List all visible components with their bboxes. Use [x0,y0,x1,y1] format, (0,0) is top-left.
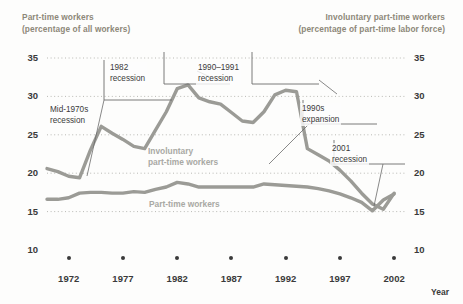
annotation-2001-recession: 2001 recession [330,143,369,166]
x-tick-label-2002: 2002 [374,273,414,284]
x-tick-dot-1972 [67,256,71,260]
y-tick-left-15: 15 [16,206,38,217]
x-tick-label-1982: 1982 [157,273,197,284]
x-tick-label-1987: 1987 [211,273,251,284]
series-label-parttime: Part-time workers [149,199,220,210]
y-tick-left-35: 35 [16,52,38,63]
right-axis-title: Involuntary part-time workers (percentag… [298,12,445,35]
x-axis-title: Year [431,287,449,297]
y-tick-left-30: 30 [16,90,38,101]
annotation-1990s-expansion: 1990s expansion [300,103,341,126]
y-tick-right-30: 30 [414,90,436,101]
y-tick-right-15: 15 [414,206,436,217]
y-tick-right-10: 10 [414,244,436,255]
x-tick-dot-1987 [229,256,233,260]
x-tick-dot-2002 [392,256,396,260]
series-label-involuntary: Involuntary part-time workers [148,146,218,167]
x-tick-dot-1977 [121,256,125,260]
x-tick-dot-1982 [175,256,179,260]
x-tick-dot-1992 [284,256,288,260]
y-tick-right-35: 35 [414,52,436,63]
y-tick-left-25: 25 [16,129,38,140]
x-tick-label-1997: 1997 [320,273,360,284]
y-tick-left-10: 10 [16,244,38,255]
x-tick-label-1977: 1977 [103,273,143,284]
annotation-1990-1991-recession: 1990–1991 recession [196,62,241,85]
x-tick-label-1992: 1992 [266,273,306,284]
left-axis-title: Part-time workers (percentage of all wor… [22,12,130,35]
y-tick-right-25: 25 [414,129,436,140]
chart-figure: Part-time workers (percentage of all wor… [0,0,463,304]
y-tick-left-20: 20 [16,167,38,178]
x-tick-label-1972: 1972 [49,273,89,284]
x-tick-dot-1997 [338,256,342,260]
annotation-mid-1970s-recession: Mid-1970s recession [48,104,90,127]
y-tick-right-20: 20 [414,167,436,178]
annotation-1982-recession: 1982 recession [108,62,147,85]
